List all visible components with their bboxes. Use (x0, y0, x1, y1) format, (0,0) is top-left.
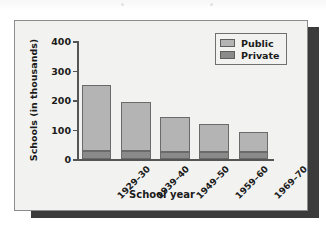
chart-figure-panel: Schools (in thousands) School year 01002… (14, 20, 308, 211)
bar-segment-public (199, 124, 229, 152)
y-tick-label: 200 (51, 95, 71, 106)
scan-speck (121, 3, 124, 6)
bar-group (82, 85, 112, 159)
bar-segment-private (239, 152, 269, 159)
y-tick-label: 400 (51, 36, 71, 47)
bar-segment-public (121, 102, 151, 151)
scan-artifact-strip (0, 0, 326, 10)
y-tick-label: 300 (51, 65, 71, 76)
chart-legend: Public Private (215, 33, 287, 65)
y-tick-mark (73, 159, 77, 161)
legend-item-private: Private (220, 49, 280, 61)
y-axis-title: Schools (in thousands) (28, 39, 39, 161)
y-tick-mark (73, 100, 77, 102)
legend-swatch-public (220, 39, 235, 47)
bar-segment-private (199, 152, 229, 159)
bar-segment-public (239, 132, 269, 151)
bar-group (199, 124, 229, 159)
bar-segment-private (160, 152, 190, 159)
y-tick-mark (73, 71, 77, 73)
y-tick-mark (73, 41, 77, 43)
bar-group (121, 102, 151, 159)
bar-group (239, 132, 269, 159)
legend-label-public: Public (241, 38, 274, 49)
legend-swatch-private (220, 51, 235, 59)
y-tick-label: 100 (51, 124, 71, 135)
y-tick-mark (73, 130, 77, 132)
bar-segment-private (82, 151, 112, 159)
bar-segment-public (82, 85, 112, 151)
scan-speck (210, 3, 213, 6)
bar-segment-private (121, 151, 151, 159)
legend-label-private: Private (241, 50, 280, 61)
x-axis-line (77, 159, 274, 161)
y-tick-label: 0 (64, 154, 71, 165)
bar-group (160, 117, 190, 159)
legend-item-public: Public (220, 37, 280, 49)
bar-segment-public (160, 117, 190, 152)
